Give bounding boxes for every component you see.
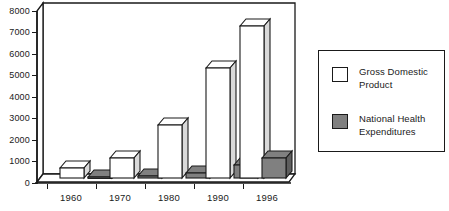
xtick-mark-1960 <box>47 184 48 189</box>
xtick-mark-1970 <box>96 184 97 189</box>
xtick-mark-1996 <box>243 184 244 189</box>
legend-swatch-gdp <box>332 67 348 82</box>
legend-item-gdp: Gross Domestic Product <box>332 66 428 91</box>
legend-swatch-nhe <box>332 114 348 129</box>
xtick-mark-1980 <box>145 184 146 189</box>
bar-gdp-1980 <box>158 118 188 178</box>
legend: Gross Domestic Product National Health E… <box>318 50 445 152</box>
legend-label-gdp: Gross Domestic Product <box>359 66 428 91</box>
bar-gdp-1990 <box>206 61 236 178</box>
xtick-label-1960: 1960 <box>48 192 94 203</box>
xtick-label-1970: 1970 <box>97 192 143 203</box>
bar-gdp-1960 <box>60 161 90 178</box>
bar-nhe-1996 <box>262 151 292 178</box>
xtick-label-1980: 1980 <box>146 192 192 203</box>
legend-item-nhe: National Health Expenditures <box>332 113 425 138</box>
bar-gdp-1970 <box>110 151 140 178</box>
xtick-label-1996: 1996 <box>244 192 290 203</box>
legend-label-nhe: National Health Expenditures <box>359 113 425 138</box>
chart-figure: 8000 7000 6000 5000 4000 3000 2000 1000 … <box>0 0 449 211</box>
xtick-mark-1990 <box>194 184 195 189</box>
xtick-label-1990: 1990 <box>195 192 241 203</box>
